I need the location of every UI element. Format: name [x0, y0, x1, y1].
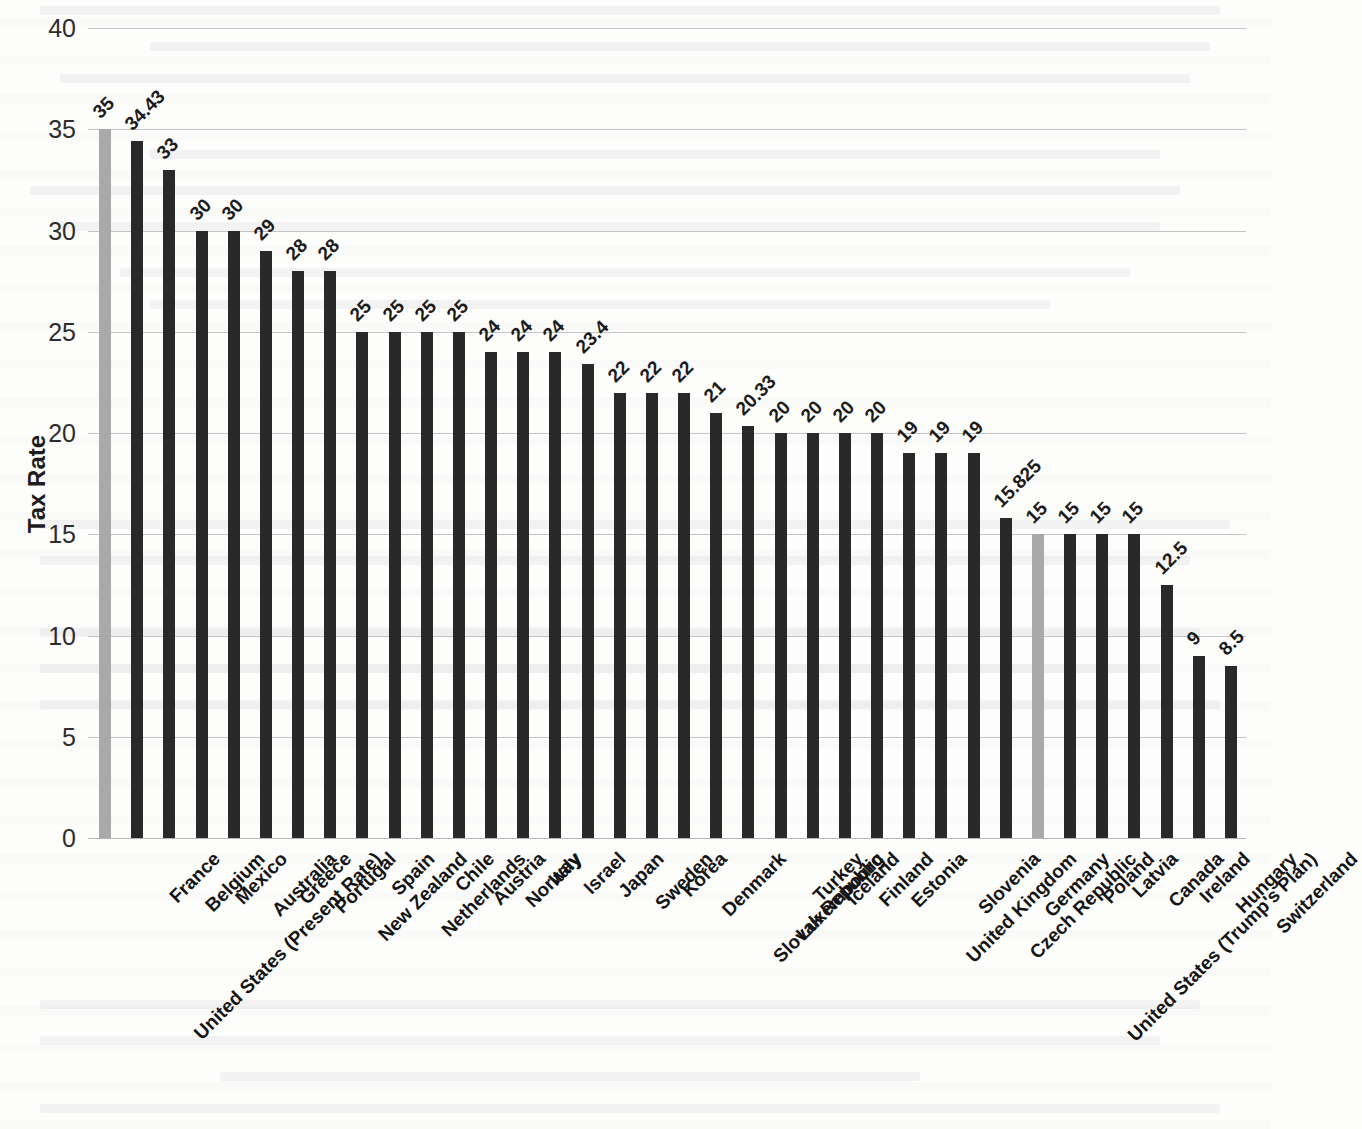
y-axis-tick-label: 5	[30, 722, 76, 751]
bar[interactable]	[871, 433, 883, 838]
bar[interactable]	[1128, 534, 1140, 838]
bar[interactable]	[421, 332, 433, 838]
y-axis-tick-labels: 0510152025303540	[0, 28, 76, 838]
bar[interactable]	[228, 231, 240, 839]
bar-value-label: 24	[539, 315, 570, 346]
bar[interactable]	[1193, 656, 1205, 838]
bar[interactable]	[968, 453, 980, 838]
bar[interactable]	[1064, 534, 1076, 838]
y-axis-tick-label: 15	[30, 520, 76, 549]
bar-value-label: 22	[635, 356, 666, 387]
bar-highlighted[interactable]	[1032, 534, 1044, 838]
bar[interactable]	[1096, 534, 1108, 838]
x-axis-category-label: Denmark	[718, 848, 791, 921]
bar[interactable]	[389, 332, 401, 838]
bar-value-label: 15	[1053, 498, 1084, 529]
y-axis-tick-label: 30	[30, 216, 76, 245]
bar[interactable]	[1161, 585, 1173, 838]
bar[interactable]	[356, 332, 368, 838]
bar-value-label: 19	[893, 417, 924, 448]
y-axis-tick-label: 25	[30, 317, 76, 346]
y-axis-tick-label: 10	[30, 621, 76, 650]
bar-value-label: 24	[474, 315, 505, 346]
x-axis-category-labels: United States (Present Rate)FranceBelgiu…	[88, 0, 1246, 300]
bar[interactable]	[485, 352, 497, 838]
bar-value-label: 15	[1086, 498, 1117, 529]
bar[interactable]	[292, 271, 304, 838]
gridline	[88, 838, 1246, 839]
bar-value-label: 8.5	[1214, 626, 1248, 660]
bar[interactable]	[549, 352, 561, 838]
bar[interactable]	[678, 393, 690, 839]
bar-value-label: 19	[925, 417, 956, 448]
bar-value-label: 22	[603, 356, 634, 387]
bar[interactable]	[582, 364, 594, 838]
bar-value-label: 20	[828, 396, 859, 427]
bar[interactable]	[1225, 666, 1237, 838]
bar[interactable]	[646, 393, 658, 839]
bar[interactable]	[775, 433, 787, 838]
bar[interactable]	[839, 433, 851, 838]
bar-value-label: 15	[1021, 498, 1052, 529]
bar-value-label: 22	[667, 356, 698, 387]
bar[interactable]	[807, 433, 819, 838]
bar[interactable]	[517, 352, 529, 838]
bar[interactable]	[453, 332, 465, 838]
y-axis-tick-label: 20	[30, 419, 76, 448]
bar-value-label: 24	[507, 315, 538, 346]
bar[interactable]	[903, 453, 915, 838]
y-axis-tick-label: 0	[30, 824, 76, 853]
y-axis-tick-label: 40	[30, 14, 76, 43]
bar[interactable]	[614, 393, 626, 839]
bar[interactable]	[260, 251, 272, 838]
bar[interactable]	[935, 453, 947, 838]
bar-value-label: 19	[957, 417, 988, 448]
bar[interactable]	[324, 271, 336, 838]
bar[interactable]	[710, 413, 722, 838]
bar-value-label: 20	[860, 396, 891, 427]
bar-value-label: 21	[700, 376, 731, 407]
bar[interactable]	[1000, 518, 1012, 838]
bar-value-label: 20	[796, 396, 827, 427]
bar[interactable]	[742, 426, 754, 838]
bar[interactable]	[196, 231, 208, 839]
bar-value-label: 20	[764, 396, 795, 427]
bar-value-label: 9	[1182, 627, 1205, 650]
y-axis-tick-label: 35	[30, 115, 76, 144]
bar-value-label: 15	[1118, 498, 1149, 529]
